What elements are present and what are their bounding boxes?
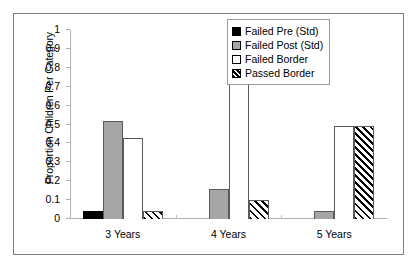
bar xyxy=(143,211,163,219)
x-axis-label: 3 Years xyxy=(70,228,176,240)
bar xyxy=(83,211,103,219)
y-axis-tick-label: 0 xyxy=(54,212,60,224)
bar xyxy=(123,138,143,219)
chart-legend: Failed Pre (Std)Failed Post (Std)Failed … xyxy=(227,19,330,85)
legend-swatch-icon xyxy=(232,41,241,50)
bar xyxy=(314,211,334,219)
y-axis-tick-label: 0.5 xyxy=(45,118,60,130)
legend-label: Failed Border xyxy=(245,53,308,65)
y-axis-tick-label: 0.6 xyxy=(45,99,60,111)
legend-swatch-icon xyxy=(232,27,241,36)
legend-item: Passed Border xyxy=(232,66,323,80)
y-axis-tick-label: 0.4 xyxy=(45,136,60,148)
bar xyxy=(354,126,374,219)
bar-group-bars xyxy=(70,30,176,219)
y-axis-tick-label: 0.2 xyxy=(45,174,60,186)
y-axis-tick-label: 1 xyxy=(54,23,60,35)
bar xyxy=(229,79,249,219)
group-separator xyxy=(281,215,282,219)
y-axis-tick-label: 0.8 xyxy=(45,61,60,73)
y-axis-tick-label: 0.3 xyxy=(45,155,60,167)
x-axis-label: 5 Years xyxy=(281,228,387,240)
figure-frame: Proportion Children Per Category 10.90.8… xyxy=(13,13,404,255)
legend-label: Passed Border xyxy=(245,67,314,79)
legend-item: Failed Pre (Std) xyxy=(232,24,323,38)
group-separator xyxy=(176,215,177,219)
bar-chart: Proportion Children Per Category 10.90.8… xyxy=(0,0,419,270)
legend-swatch-icon xyxy=(232,69,241,78)
y-axis-tick-label: 0.9 xyxy=(45,42,60,54)
y-axis-tick-label: 0.7 xyxy=(45,80,60,92)
bar xyxy=(334,126,354,219)
bar xyxy=(103,121,123,219)
legend-item: Failed Border xyxy=(232,52,323,66)
bar xyxy=(249,200,269,219)
x-axis-label: 4 Years xyxy=(176,228,282,240)
legend-label: Failed Pre (Std) xyxy=(245,25,319,37)
legend-item: Failed Post (Std) xyxy=(232,38,323,52)
bar xyxy=(209,189,229,219)
y-axis-tick-label: 0.1 xyxy=(45,193,60,205)
legend-label: Failed Post (Std) xyxy=(245,39,323,51)
bar-group: 3 Years xyxy=(70,30,176,219)
legend-swatch-icon xyxy=(232,55,241,64)
